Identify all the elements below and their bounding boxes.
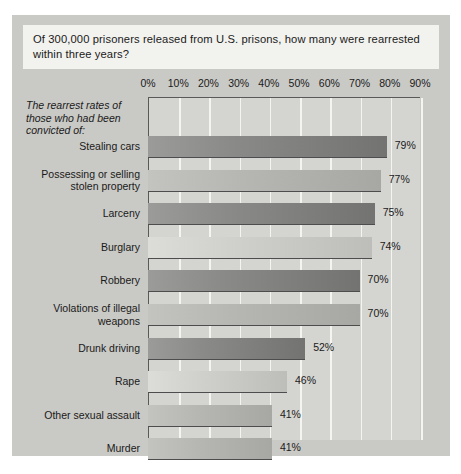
chart-title: Of 300,000 prisoners released from U.S. … (33, 32, 429, 62)
category-label: Larceny (12, 207, 140, 220)
x-tick-label: 40% (258, 77, 279, 89)
bar (148, 371, 287, 393)
bar (148, 170, 381, 192)
x-tick-label: 20% (198, 77, 219, 89)
bar-value-label: 70% (368, 273, 389, 285)
bar-row: 74% (148, 237, 458, 258)
x-tick-label: 30% (228, 77, 249, 89)
bar-row: 41% (148, 405, 458, 426)
category-label: Murder (12, 442, 140, 455)
category-label: Robbery (12, 274, 140, 287)
chart-figure: Of 300,000 prisoners released from U.S. … (12, 15, 450, 456)
bar-row: 77% (148, 170, 458, 191)
bar (148, 405, 272, 427)
bar-value-label: 41% (280, 441, 301, 453)
bar (148, 304, 360, 326)
chart-title-box: Of 300,000 prisoners released from U.S. … (23, 25, 439, 69)
x-tick-label: 80% (379, 77, 400, 89)
bar (148, 438, 272, 460)
bar-value-label: 46% (295, 374, 316, 386)
x-tick-label: 10% (168, 77, 189, 89)
x-tick-label: 50% (289, 77, 310, 89)
category-label: Other sexual assault (12, 409, 140, 422)
bar (148, 338, 305, 360)
category-label: Drunk driving (12, 342, 140, 355)
bar-value-label: 70% (368, 307, 389, 319)
bar-value-label: 75% (383, 206, 404, 218)
bar-row: 70% (148, 304, 458, 325)
x-tick-label: 60% (319, 77, 340, 89)
category-label: Possessing or selling stolen property (12, 168, 140, 193)
category-label: Violations of illegal weapons (12, 302, 140, 327)
bar (148, 136, 387, 158)
bar-value-label: 79% (395, 139, 416, 151)
category-label: Stealing cars (12, 140, 140, 153)
x-axis-tick-labels: 0%10%20%30%40%50%60%70%80%90% (12, 77, 450, 95)
category-labels-group: Stealing carsPossessing or selling stole… (12, 97, 140, 440)
bar-value-label: 74% (380, 240, 401, 252)
bar (148, 270, 360, 292)
bar-row: 79% (148, 136, 458, 157)
x-tick-label: 0% (140, 77, 155, 89)
x-tick-label: 90% (409, 77, 430, 89)
bar-value-label: 77% (389, 173, 410, 185)
category-label: Burglary (12, 241, 140, 254)
bar-row: 75% (148, 203, 458, 224)
bar (148, 203, 375, 225)
x-tick-label: 70% (349, 77, 370, 89)
bar-value-label: 41% (280, 408, 301, 420)
bars-group: 79%77%75%74%70%70%52%46%41%41% (148, 97, 458, 440)
bar-row: 70% (148, 270, 458, 291)
bar-row: 46% (148, 371, 458, 392)
bar (148, 237, 372, 259)
bar-value-label: 52% (313, 341, 334, 353)
bar-row: 52% (148, 338, 458, 359)
category-label: Rape (12, 375, 140, 388)
bar-row: 41% (148, 438, 458, 459)
